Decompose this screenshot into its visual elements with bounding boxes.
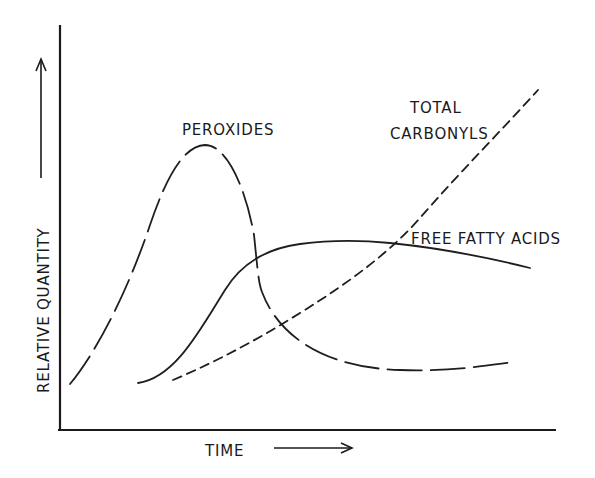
- free-fatty-acids-curve: [138, 241, 530, 383]
- peroxides-label: PEROXIDES: [182, 121, 274, 139]
- free-fatty-acids-label: FREE FATTY ACIDS: [411, 230, 561, 248]
- oxidation-products-diagram: RELATIVE QUANTITY TIME PEROXIDES TOTAL C…: [0, 0, 595, 478]
- x-axis-arrow-icon: [274, 443, 352, 453]
- carbonyls-label-line2: CARBONYLS: [390, 125, 488, 143]
- carbonyls-label-line1: TOTAL: [409, 99, 462, 117]
- peroxides-curve: [70, 145, 515, 384]
- y-axis-label: RELATIVE QUANTITY: [35, 227, 53, 393]
- y-axis-arrow-icon: [36, 59, 46, 178]
- x-axis-label: TIME: [204, 442, 244, 460]
